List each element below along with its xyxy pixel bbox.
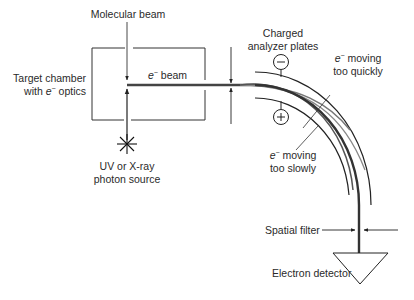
negative-charge-icon [274,55,289,70]
label-too-slowly: e− moving too slowly [262,149,324,174]
label-target-chamber: Target chamber with e− optics [0,72,86,97]
electron-trajectory-too-slowly [240,84,353,190]
positive-charge-icon [274,110,289,125]
label-analyzer-plates: Charged analyzer plates [244,27,322,52]
label-spatial-filter: Spatial filter [265,224,320,237]
photon-source-star-icon [117,134,137,154]
diagram-canvas [0,0,414,300]
analyzer-plate-inner [255,98,349,195]
label-e-beam: e− beam [148,69,187,82]
label-too-quickly: e− moving too quickly [328,52,388,77]
label-electron-detector: Electron detector [272,267,351,280]
analyzer-plate-outer [255,72,371,205]
label-molecular-beam: Molecular beam [88,8,168,21]
label-photon-source: UV or X-ray photon source [90,160,164,185]
too-slowly-leader [296,126,318,150]
